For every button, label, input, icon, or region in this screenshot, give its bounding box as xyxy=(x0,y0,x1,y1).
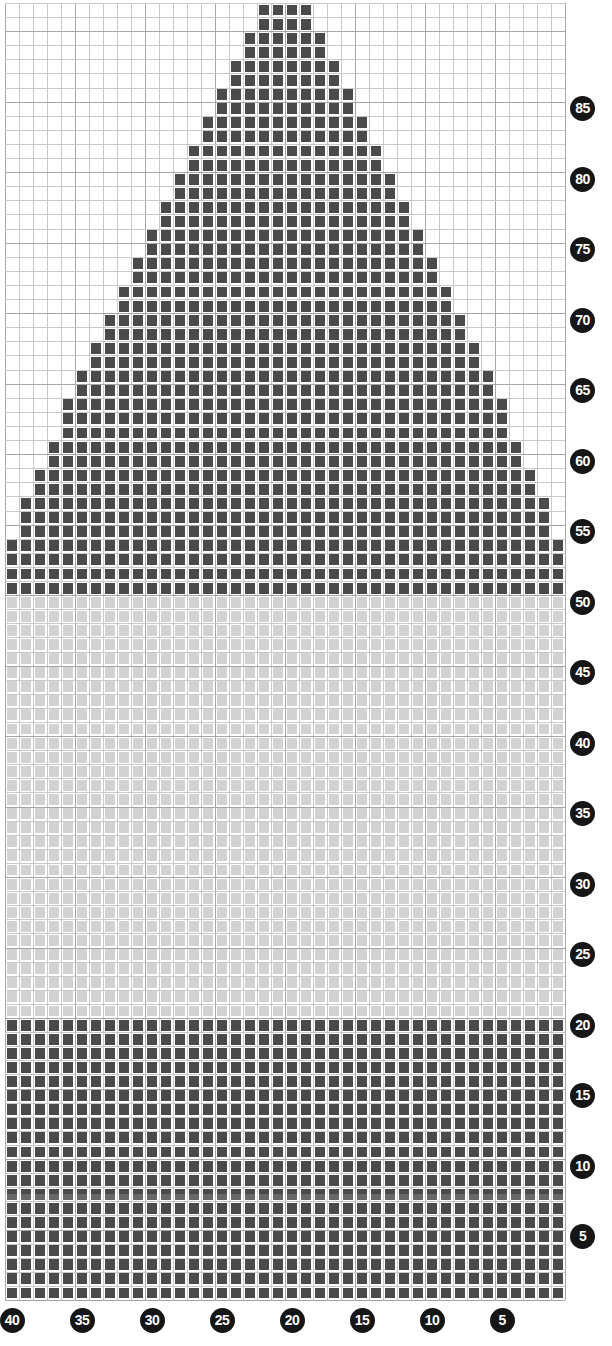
chart-cell[interactable] xyxy=(357,597,368,608)
chart-cell[interactable] xyxy=(399,893,410,904)
chart-cell[interactable] xyxy=(259,569,270,580)
chart-cell[interactable] xyxy=(35,498,46,509)
chart-cell[interactable] xyxy=(91,949,102,960)
chart-cell[interactable] xyxy=(77,724,88,735)
chart-cell[interactable] xyxy=(105,484,116,495)
chart-cell[interactable] xyxy=(7,1048,18,1059)
chart-cell[interactable] xyxy=(301,1076,312,1087)
chart-cell[interactable] xyxy=(329,935,340,946)
chart-cell[interactable] xyxy=(469,1104,480,1115)
chart-cell[interactable] xyxy=(427,484,438,495)
chart-cell[interactable] xyxy=(427,611,438,622)
chart-cell[interactable] xyxy=(385,879,396,890)
chart-cell[interactable] xyxy=(245,188,256,199)
chart-cell[interactable] xyxy=(231,117,242,128)
chart-cell[interactable] xyxy=(147,484,158,495)
chart-cell[interactable] xyxy=(133,625,144,636)
chart-cell[interactable] xyxy=(91,963,102,974)
chart-cell[interactable] xyxy=(119,315,130,326)
chart-cell[interactable] xyxy=(301,921,312,932)
chart-cell[interactable] xyxy=(371,413,382,424)
chart-cell[interactable] xyxy=(217,1161,228,1172)
chart-cell[interactable] xyxy=(147,850,158,861)
chart-cell[interactable] xyxy=(343,569,354,580)
chart-cell[interactable] xyxy=(175,216,186,227)
chart-cell[interactable] xyxy=(77,1259,88,1270)
chart-cell[interactable] xyxy=(189,146,200,157)
chart-cell[interactable] xyxy=(105,752,116,763)
chart-cell[interactable] xyxy=(259,949,270,960)
chart-cell[interactable] xyxy=(343,653,354,664)
chart-cell[interactable] xyxy=(315,103,326,114)
chart-cell[interactable] xyxy=(245,484,256,495)
chart-cell[interactable] xyxy=(525,1048,536,1059)
chart-cell[interactable] xyxy=(357,343,368,354)
chart-cell[interactable] xyxy=(371,1147,382,1158)
chart-cell[interactable] xyxy=(189,597,200,608)
chart-cell[interactable] xyxy=(77,893,88,904)
chart-cell[interactable] xyxy=(245,33,256,44)
chart-cell[interactable] xyxy=(497,526,508,537)
chart-cell[interactable] xyxy=(301,160,312,171)
chart-cell[interactable] xyxy=(161,329,172,340)
chart-cell[interactable] xyxy=(427,1273,438,1284)
chart-cell[interactable] xyxy=(357,371,368,382)
chart-cell[interactable] xyxy=(301,808,312,819)
chart-cell[interactable] xyxy=(7,963,18,974)
chart-cell[interactable] xyxy=(469,709,480,720)
chart-cell[interactable] xyxy=(35,1147,46,1158)
chart-cell[interactable] xyxy=(119,611,130,622)
chart-cell[interactable] xyxy=(427,343,438,354)
chart-cell[interactable] xyxy=(357,442,368,453)
chart-cell[interactable] xyxy=(273,1104,284,1115)
chart-cell[interactable] xyxy=(175,893,186,904)
chart-cell[interactable] xyxy=(245,470,256,481)
chart-cell[interactable] xyxy=(553,1118,564,1129)
chart-cell[interactable] xyxy=(441,893,452,904)
chart-cell[interactable] xyxy=(189,1189,200,1200)
chart-cell[interactable] xyxy=(511,850,522,861)
chart-cell[interactable] xyxy=(147,1273,158,1284)
chart-cell[interactable] xyxy=(315,75,326,86)
chart-cell[interactable] xyxy=(343,385,354,396)
chart-cell[interactable] xyxy=(427,1147,438,1158)
chart-cell[interactable] xyxy=(553,1006,564,1017)
chart-cell[interactable] xyxy=(455,681,466,692)
chart-cell[interactable] xyxy=(119,822,130,833)
chart-cell[interactable] xyxy=(315,272,326,283)
chart-cell[interactable] xyxy=(553,1104,564,1115)
chart-cell[interactable] xyxy=(133,1203,144,1214)
chart-cell[interactable] xyxy=(357,977,368,988)
chart-cell[interactable] xyxy=(161,794,172,805)
chart-cell[interactable] xyxy=(245,146,256,157)
chart-cell[interactable] xyxy=(399,1090,410,1101)
chart-cell[interactable] xyxy=(105,583,116,594)
chart-cell[interactable] xyxy=(217,780,228,791)
chart-cell[interactable] xyxy=(245,1245,256,1256)
chart-cell[interactable] xyxy=(343,1231,354,1242)
chart-cell[interactable] xyxy=(147,1132,158,1143)
chart-cell[interactable] xyxy=(469,569,480,580)
chart-cell[interactable] xyxy=(49,695,60,706)
chart-cell[interactable] xyxy=(385,258,396,269)
chart-cell[interactable] xyxy=(483,413,494,424)
chart-cell[interactable] xyxy=(175,1048,186,1059)
chart-cell[interactable] xyxy=(21,1104,32,1115)
chart-cell[interactable] xyxy=(287,1062,298,1073)
chart-cell[interactable] xyxy=(63,738,74,749)
chart-cell[interactable] xyxy=(301,244,312,255)
chart-cell[interactable] xyxy=(413,1034,424,1045)
chart-cell[interactable] xyxy=(49,540,60,551)
chart-cell[interactable] xyxy=(245,977,256,988)
chart-cell[interactable] xyxy=(497,554,508,565)
chart-cell[interactable] xyxy=(189,794,200,805)
chart-cell[interactable] xyxy=(315,1104,326,1115)
chart-cell[interactable] xyxy=(525,907,536,918)
chart-cell[interactable] xyxy=(7,1203,18,1214)
chart-cell[interactable] xyxy=(147,512,158,523)
chart-cell[interactable] xyxy=(147,456,158,467)
chart-cell[interactable] xyxy=(371,583,382,594)
chart-cell[interactable] xyxy=(217,1273,228,1284)
chart-cell[interactable] xyxy=(161,456,172,467)
chart-cell[interactable] xyxy=(385,625,396,636)
